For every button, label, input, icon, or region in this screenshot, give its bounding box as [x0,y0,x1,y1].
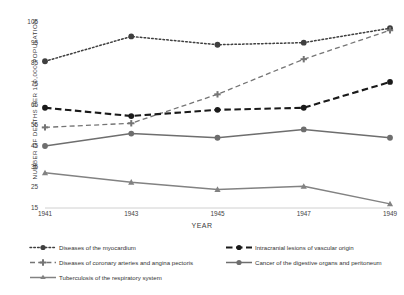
data-point-marker [301,127,307,133]
series-4 [42,170,393,207]
y-tick-75: 75 [12,80,38,87]
y-tick-65: 65 [12,101,38,108]
legend-row: Tuberculosis of the respiratory system [30,273,402,282]
legend-item-coronary[interactable]: Diseases of coronary arteries and angina… [30,258,226,267]
data-point-marker [128,131,134,137]
y-tick-85: 85 [12,59,38,66]
legend-key-intracranial-icon [226,243,252,252]
legend-key-cancer-icon [226,258,252,267]
x-axis-title: YEAR [0,222,404,229]
legend-label: Cancer of the digestive organs and perit… [255,258,382,267]
data-point-marker [215,107,221,113]
x-tick-1947: 1947 [284,210,324,217]
y-tick-95: 95 [12,39,38,46]
y-tick-25: 25 [12,183,38,190]
data-point-marker [301,40,307,46]
legend-key-coronary-icon [30,258,56,267]
legend-label: Diseases of coronary arteries and angina… [59,258,193,267]
legend-item-intracranial[interactable]: Intracranial lesions of vascular origin [226,243,402,252]
x-tick-1941: 1941 [25,210,65,217]
legend-item-cancer[interactable]: Cancer of the digestive organs and perit… [226,258,402,267]
y-tick-55: 55 [12,121,38,128]
legend-label: Tuberculosis of the respiratory system [59,273,162,282]
plot-svg [45,22,390,208]
x-tick-1945: 1945 [198,210,238,217]
data-point-marker [215,42,221,48]
series-0 [42,25,393,64]
data-point-marker [42,124,48,130]
legend-row: Diseases of coronary arteries and angina… [30,258,402,267]
data-point-marker [301,105,307,111]
plot-area [45,22,390,208]
legend-key-tuberculosis-icon [30,273,56,282]
data-point-marker [128,34,134,40]
series-2 [42,79,393,119]
legend-key-myocardium-icon [30,243,56,252]
legend-label: Intracranial lesions of vascular origin [255,243,354,252]
data-point-marker [128,113,134,119]
series-3 [42,127,393,149]
data-point-marker [215,135,221,141]
y-tick-35: 35 [12,163,38,170]
data-point-marker [387,135,393,141]
data-point-marker [42,143,48,149]
data-point-marker [387,79,393,85]
legend-row: Diseases of the myocardium Intracranial … [30,243,402,252]
line-chart: NUMBER OF DEATHS PER 100,000 POPULATION … [0,0,404,295]
data-point-marker [214,91,220,97]
data-point-marker [128,120,134,126]
x-tick-1949: 1949 [370,210,404,217]
legend-label: Diseases of the myocardium [59,243,136,252]
y-tick-45: 45 [12,142,38,149]
data-point-marker [301,56,307,62]
chart-legend: Diseases of the myocardium Intracranial … [30,243,402,288]
legend-item-myocardium[interactable]: Diseases of the myocardium [30,243,226,252]
x-tick-1943: 1943 [111,210,151,217]
data-point-marker [42,58,48,64]
data-point-marker [42,105,48,111]
legend-item-tuberculosis[interactable]: Tuberculosis of the respiratory system [30,273,226,282]
y-tick-105: 105 [12,18,38,25]
